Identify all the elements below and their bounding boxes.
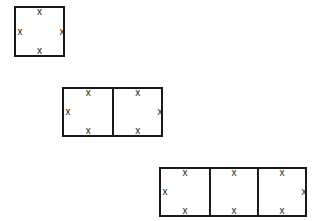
square-cell: x x x x	[16, 8, 63, 55]
three-squares-group: x x x x x x x x	[159, 167, 307, 217]
x-marker-left: x	[66, 107, 71, 117]
square-cell: x x x	[257, 169, 305, 215]
square-cell: x x	[209, 169, 257, 215]
x-marker-top: x	[37, 7, 42, 17]
square-cell: x x x	[64, 89, 112, 135]
square-cell: x x x	[161, 169, 209, 215]
x-marker-top: x	[182, 168, 187, 178]
x-marker-bottom: x	[86, 126, 91, 136]
two-squares-group: x x x x x x	[62, 87, 163, 137]
square-cell: x x x	[112, 89, 161, 135]
x-marker-right: x	[302, 187, 307, 197]
x-marker-top: x	[135, 88, 140, 98]
x-marker-bottom: x	[135, 126, 140, 136]
x-marker-top: x	[86, 88, 91, 98]
x-marker-bottom: x	[37, 46, 42, 56]
x-marker-left: x	[18, 27, 23, 37]
x-marker-top: x	[279, 168, 284, 178]
x-marker-bottom: x	[279, 206, 284, 216]
x-marker-left: x	[163, 187, 168, 197]
single-square-group: x x x x	[14, 6, 65, 57]
x-marker-bottom: x	[182, 206, 187, 216]
x-marker-top: x	[231, 168, 236, 178]
x-marker-right: x	[60, 27, 65, 37]
x-marker-bottom: x	[231, 206, 236, 216]
x-marker-right: x	[158, 107, 163, 117]
